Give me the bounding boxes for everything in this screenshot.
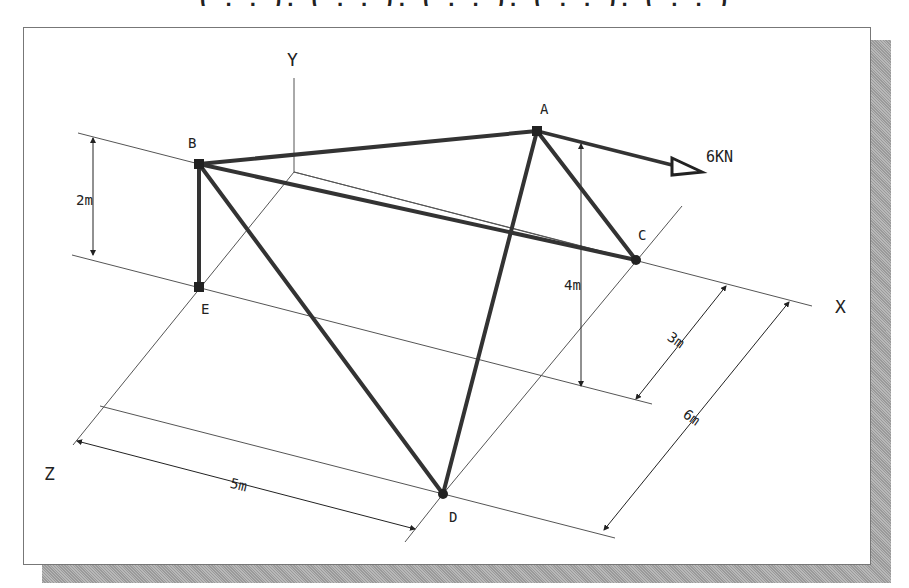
axis-label-z: Z [44,463,55,484]
label-b: B [188,135,196,151]
dim-label-4m: 4m [564,277,581,293]
label-c: C [638,227,646,243]
node-d [438,489,448,499]
label-e: E [201,301,209,317]
label-d: D [449,509,457,525]
node-c [631,255,641,265]
dim-label-3m: 3m [665,329,688,352]
label-a: A [540,101,549,117]
construction-lines [72,78,812,542]
node-e [194,282,204,292]
truss-members [199,131,636,494]
node-b [194,159,204,169]
member-bd [199,164,443,494]
z-axis-line [73,172,294,445]
member-bc [199,164,636,260]
dim-label-2m: 2m [76,192,93,208]
member-ad [443,131,537,494]
axis-label-x: X [835,296,846,317]
load-label: 6KN [706,148,733,166]
node-a [532,126,542,136]
dim-label-5m: 5m [229,475,249,495]
truss-diagram: A B C D E Y X Z 6KN 2m 4m 3m 6m 5m [0,0,909,588]
dim-label-6m: 6m [680,406,703,429]
load-arrow-icon [537,131,702,175]
member-ab [199,131,537,164]
axis-label-y: Y [287,49,298,70]
